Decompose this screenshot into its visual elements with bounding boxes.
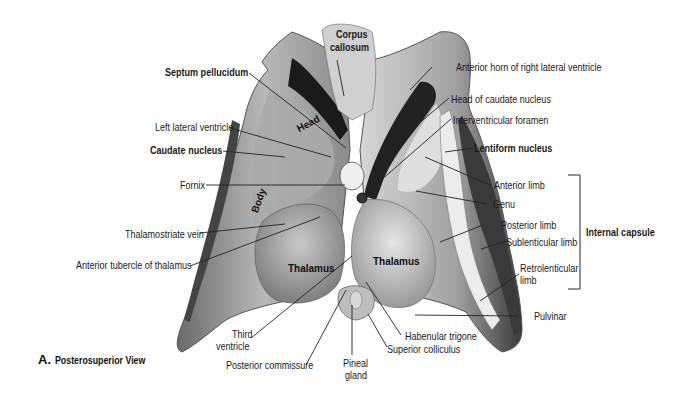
label-corpus-callosum-2: callosum xyxy=(330,41,369,53)
label-caudate-nucleus: Caudate nucleus xyxy=(150,144,222,156)
label-pineal-2: gland xyxy=(345,369,367,381)
label-third-ventricle-1: Third xyxy=(232,328,253,340)
caption-letter: A. xyxy=(38,352,51,367)
label-genu: Genu xyxy=(493,198,515,210)
label-posterior-limb: Posterior limb xyxy=(501,219,556,231)
label-left-lateral-ventricle: Left lateral ventricle xyxy=(155,121,233,133)
label-retrolenticular-1: Retrolenticular xyxy=(520,262,578,274)
label-anterior-tubercle: Anterior tubercle of thalamus xyxy=(76,259,191,271)
inner-label-thalamus-left: Thalamus xyxy=(288,263,335,274)
figure-caption: A. Posterosuperior View xyxy=(38,350,158,368)
label-internal-capsule: Internal capsule xyxy=(586,226,655,238)
label-retrolenticular-2: limb xyxy=(520,274,537,286)
label-habenular-trigone: Habenular trigone xyxy=(405,330,477,342)
label-anterior-limb: Anterior limb xyxy=(494,179,545,191)
label-thalamostriate-vein: Thalamostriate vein xyxy=(125,228,204,240)
label-head-of-caudate: Head of caudate nucleus xyxy=(451,93,551,105)
label-pineal-1: Pineal xyxy=(343,357,368,369)
label-interventricular-foramen: Interventricular foramen xyxy=(453,114,548,126)
label-pulvinar: Pulvinar xyxy=(534,310,567,322)
label-posterior-commissure: Posterior commissure xyxy=(226,359,313,371)
inner-label-thalamus-right: Thalamus xyxy=(373,256,420,267)
label-lentiform-nucleus: Lentiform nucleus xyxy=(474,142,552,154)
label-third-ventricle-2: ventricle xyxy=(216,340,250,352)
label-anterior-horn: Anterior horn of right lateral ventricle xyxy=(456,61,602,73)
label-septum-pellucidum: Septum pellucidum xyxy=(165,66,248,78)
caption-title: Posterosuperior View xyxy=(55,355,145,366)
label-fornix: Fornix xyxy=(180,179,205,191)
anatomy-figure: Head Body Thalamus Thalamus Septum pellu… xyxy=(0,0,690,401)
label-corpus-callosum-1: Corpus xyxy=(336,28,368,40)
label-superior-colliculus: Superior colliculus xyxy=(387,343,460,355)
label-sublenticular-limb: Sublenticular limb xyxy=(506,236,577,248)
